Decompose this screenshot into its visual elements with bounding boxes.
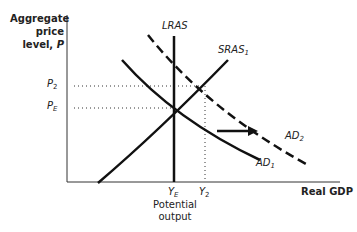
ad1-label: AD1 — [256, 157, 275, 170]
ad2-sub: 2 — [300, 135, 304, 143]
ad2-base: AD — [285, 130, 300, 141]
y-axis-label-var: P — [57, 39, 64, 50]
ad1-sub: 1 — [271, 162, 275, 170]
y2-label: Y2 — [199, 186, 210, 199]
y-axis-label-level: level, — [22, 39, 53, 50]
y-axis-label: Aggregate price level, P — [10, 12, 64, 51]
pe-sub: E — [53, 105, 57, 113]
y-axis-label-line2: price — [10, 25, 64, 38]
ye-label: YE — [168, 186, 179, 199]
lras-label: LRAS — [162, 20, 188, 31]
potential-output-label: Potential output — [152, 199, 198, 223]
ye-sub: E — [174, 191, 178, 199]
p2-sub: 2 — [53, 83, 57, 91]
potential-line1: Potential — [152, 199, 198, 211]
ad2-label: AD2 — [285, 130, 304, 143]
ad1-base: AD — [256, 157, 271, 168]
y-axis-label-line3: level, P — [10, 38, 64, 51]
p2-label: P2 — [47, 78, 58, 91]
potential-line2: output — [152, 211, 198, 223]
pe-label: PE — [47, 100, 57, 113]
x-axis-label: Real GDP — [301, 186, 353, 197]
sras1-base: SRAS — [218, 44, 244, 55]
sras1-label: SRAS1 — [218, 44, 249, 57]
ad1-curve — [122, 60, 260, 160]
sras1-sub: 1 — [244, 49, 248, 57]
sras1-curve — [98, 60, 228, 183]
y2-sub: 2 — [205, 191, 209, 199]
y-axis-label-line1: Aggregate — [10, 12, 64, 25]
